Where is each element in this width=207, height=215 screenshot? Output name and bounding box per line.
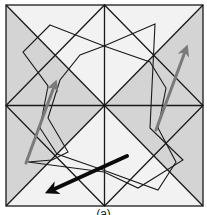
pattern-diagram	[0, 0, 207, 215]
figure-caption: (a)	[0, 208, 207, 215]
grid-lines	[6, 5, 203, 206]
